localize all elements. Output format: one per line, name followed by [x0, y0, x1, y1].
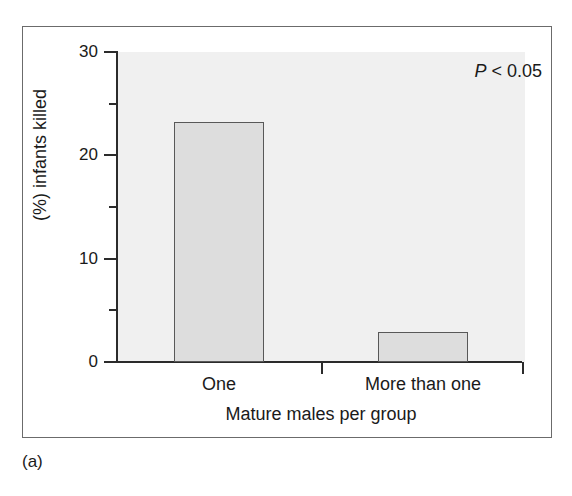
y-axis-major-tick: [104, 258, 117, 260]
x-axis-category-label: More than one: [321, 373, 525, 395]
panel-caption: (a): [22, 452, 43, 472]
y-axis-minor-tick: [109, 206, 117, 208]
y-axis-major-tick: [104, 51, 117, 53]
y-axis-major-tick: [104, 361, 117, 363]
p-value-annotation: P < 0.05: [474, 60, 542, 82]
y-axis-minor-tick: [109, 309, 117, 311]
y-axis-tick-label: 30: [0, 43, 98, 60]
bar: [174, 122, 264, 362]
y-axis-major-tick: [104, 154, 117, 156]
x-axis-title: Mature males per group: [117, 403, 525, 425]
p-value-symbol: P: [474, 61, 486, 81]
y-axis-title: (%) infants killed: [30, 75, 50, 235]
y-axis-minor-tick: [109, 103, 117, 105]
p-value-text: < 0.05: [486, 61, 542, 81]
y-axis-tick-label: 0: [0, 353, 98, 370]
x-axis-category-label: One: [117, 373, 321, 395]
bar: [378, 332, 468, 362]
y-axis-tick-label: 10: [0, 250, 98, 267]
